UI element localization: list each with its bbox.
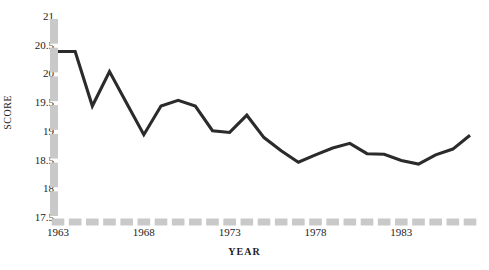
x-tick-label: 1963 (47, 226, 69, 238)
x-axis-title: YEAR (0, 246, 489, 257)
x-tick-label: 1983 (390, 226, 412, 238)
x-tick-label: 1978 (305, 226, 327, 238)
x-tick-label: 1973 (219, 226, 241, 238)
x-axis-tick-labels: 19631968197319781983 (0, 226, 489, 246)
data-series-line (58, 51, 470, 164)
line-chart: SCORE 2120.52019.51918.51817.5 196319681… (0, 0, 489, 270)
x-tick-label: 1968 (133, 226, 155, 238)
